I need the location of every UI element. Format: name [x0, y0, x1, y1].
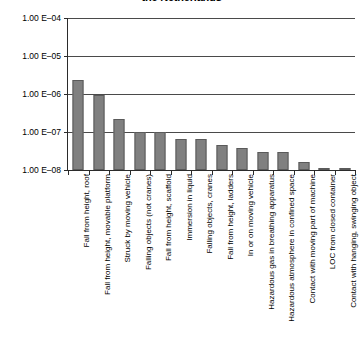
x-axis-tick-mark	[335, 170, 336, 175]
x-axis-tick-label: Hazardous atmosphere in confined space	[287, 174, 296, 322]
x-axis-tick-mark	[191, 170, 192, 175]
x-axis-tick-label: Contact with hanging, swinging object	[349, 174, 358, 308]
x-axis-tick-label: Hazardous gas in breathing apparatus	[267, 174, 276, 310]
x-axis-tick-label: Falling objects, cranes	[205, 174, 214, 254]
bar[interactable]	[114, 119, 125, 170]
bar[interactable]	[237, 148, 248, 170]
x-axis-tick-mark	[212, 170, 213, 175]
x-axis-tick-label: Fall from height, ladders	[226, 174, 235, 260]
bar-slot	[232, 18, 253, 170]
bar[interactable]	[298, 162, 309, 170]
bar-slot	[109, 18, 130, 170]
x-axis-tick-mark	[355, 170, 356, 175]
bar[interactable]	[216, 145, 227, 170]
bar[interactable]	[93, 95, 104, 170]
x-axis-tick-label: Immersion in liquid	[185, 174, 194, 241]
x-axis-tick-mark	[130, 170, 131, 175]
y-axis-tick-label: 1.00 E–06	[0, 90, 61, 99]
x-axis-tick-label: Falling objects (not cranes)	[144, 174, 153, 270]
bar[interactable]	[175, 139, 186, 170]
bar[interactable]	[257, 152, 268, 170]
bar-slot	[68, 18, 89, 170]
bar[interactable]	[196, 139, 207, 170]
bar[interactable]	[134, 132, 145, 170]
x-axis-tick-label: Fall from height, roof	[82, 174, 91, 247]
plot-area	[68, 18, 355, 170]
bar-slot	[294, 18, 315, 170]
y-axis-tick-label: 1.00 E–07	[0, 128, 61, 137]
chart-container: the Netherlands 1.00 E–041.00 E–051.00 E…	[0, 0, 363, 346]
x-axis-tick-mark	[273, 170, 274, 175]
bar[interactable]	[339, 168, 350, 170]
x-axis-tick-mark	[294, 170, 295, 175]
bar[interactable]	[319, 168, 330, 170]
x-axis-tick-mark	[89, 170, 90, 175]
x-axis-tick-label: In or on moving vehicle	[246, 174, 255, 256]
bar[interactable]	[73, 80, 84, 170]
bar-slot	[212, 18, 233, 170]
bar[interactable]	[278, 152, 289, 170]
y-axis-tick-label: 1.00 E–08	[0, 166, 61, 175]
y-axis-tick-label: 1.00 E–05	[0, 52, 61, 61]
x-axis-tick-mark	[314, 170, 315, 175]
x-axis-tick-label: Fall from height, movable platform	[103, 174, 112, 295]
x-axis-tick-label: Fall from height, scaffold	[164, 174, 173, 261]
bar-slot	[150, 18, 171, 170]
bar-slot	[314, 18, 335, 170]
y-axis-tick-label: 1.00 E–04	[0, 14, 61, 23]
chart-title: the Netherlands	[0, 0, 363, 4]
x-axis-tick-label: Contact with moving part of machine	[308, 174, 317, 303]
x-axis-tick-label: LOC from closed container	[328, 174, 337, 269]
x-axis-tick-mark	[253, 170, 254, 175]
x-axis-tick-label: Struck by moving vehicle	[123, 174, 132, 262]
x-axis-tick-mark	[68, 170, 69, 175]
bar-slot	[273, 18, 294, 170]
x-axis-tick-mark	[232, 170, 233, 175]
bar[interactable]	[155, 132, 166, 170]
bar-slot	[191, 18, 212, 170]
bar-slot	[253, 18, 274, 170]
x-axis-tick-mark	[171, 170, 172, 175]
bars-group	[68, 18, 355, 170]
bar-slot	[171, 18, 192, 170]
bar-slot	[130, 18, 151, 170]
bar-slot	[89, 18, 110, 170]
x-axis-tick-mark	[109, 170, 110, 175]
bar-slot	[335, 18, 356, 170]
x-axis-tick-mark	[150, 170, 151, 175]
